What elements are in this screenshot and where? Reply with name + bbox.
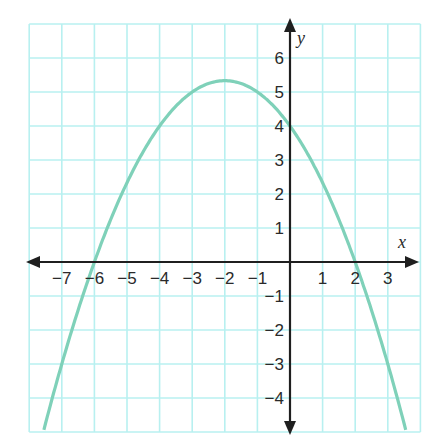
y-tick-label: −4 bbox=[265, 389, 284, 408]
grid-lines bbox=[29, 24, 420, 432]
y-tick-label: −1 bbox=[265, 287, 284, 306]
x-axis-right-arrow-icon bbox=[405, 256, 419, 268]
y-tick-label: 1 bbox=[275, 219, 284, 238]
y-tick-label: 4 bbox=[275, 117, 284, 136]
x-tick-label: −5 bbox=[117, 269, 136, 288]
y-tick-label: 3 bbox=[275, 151, 284, 170]
x-tick-label: −6 bbox=[85, 269, 104, 288]
x-tick-label: 1 bbox=[318, 269, 327, 288]
x-tick-label: −2 bbox=[215, 269, 234, 288]
x-tick-label: −3 bbox=[183, 269, 202, 288]
x-tick-label: −1 bbox=[248, 269, 267, 288]
y-tick-label: −3 bbox=[265, 355, 284, 374]
y-tick-label: −2 bbox=[265, 321, 284, 340]
x-tick-label: 2 bbox=[350, 269, 359, 288]
x-tick-label: −4 bbox=[150, 269, 169, 288]
x-tick-label: −7 bbox=[52, 269, 71, 288]
y-tick-label: 2 bbox=[275, 185, 284, 204]
x-tick-label: 3 bbox=[383, 269, 392, 288]
y-axis-down-arrow-icon bbox=[284, 421, 296, 435]
y-tick-label: 5 bbox=[275, 83, 284, 102]
y-axis-label: y bbox=[295, 28, 305, 48]
x-tick-labels: −7−6−5−4−3−2−1123 bbox=[52, 269, 392, 288]
y-tick-label: 6 bbox=[275, 49, 284, 68]
x-axis-left-arrow-icon bbox=[26, 256, 40, 268]
x-axis-label: x bbox=[397, 232, 406, 252]
coordinate-plane: −7−6−5−4−3−2−1123 654321−1−2−3−4 x y bbox=[0, 0, 430, 439]
y-axis-up-arrow-icon bbox=[284, 18, 296, 32]
